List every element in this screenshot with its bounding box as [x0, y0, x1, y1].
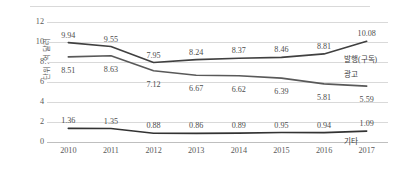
data-point-label: 9.94: [53, 31, 83, 40]
data-point-label: 0.88: [139, 121, 169, 130]
x-tick-label: 2015: [261, 145, 301, 157]
series-label-1: 광고: [344, 70, 358, 79]
series-label-0: 발행(구독): [344, 55, 377, 64]
data-point-label: 6.62: [224, 85, 254, 94]
line-chart-figure: 단위 : 억 달러 024681012 9.949.557.958.248.37…: [0, 0, 403, 180]
x-tick-label: 2013: [176, 145, 216, 157]
data-point-label: 8.37: [224, 46, 254, 55]
gridline-0: [47, 142, 388, 143]
data-point-label: 5.59: [352, 95, 382, 104]
y-tick-label: 10: [28, 37, 44, 46]
data-point-label: 0.86: [181, 121, 211, 130]
data-point-label: 8.51: [53, 66, 83, 75]
data-point-label: 7.12: [139, 80, 169, 89]
x-tick-label: 2010: [48, 145, 88, 157]
y-tick-label: 0: [28, 137, 44, 146]
y-tick-label: 2: [28, 117, 44, 126]
data-point-label: 0.89: [224, 121, 254, 130]
data-point-label: 0.94: [309, 121, 339, 130]
y-tick-label: 12: [28, 17, 44, 26]
x-tick-label: 2014: [219, 145, 259, 157]
data-point-label: 1.36: [53, 116, 83, 125]
data-point-label: 0.95: [266, 121, 296, 130]
data-point-label: 5.81: [309, 93, 339, 102]
x-tick-label: 2016: [304, 145, 344, 157]
data-point-label: 8.81: [309, 42, 339, 51]
x-axis-tick-labels: 20102011201220132014201520162017: [47, 145, 388, 159]
data-point-label: 1.09: [352, 119, 382, 128]
y-tick-label: 4: [28, 97, 44, 106]
x-tick-label: 2011: [91, 145, 131, 157]
data-point-label: 6.39: [266, 87, 296, 96]
x-tick-label: 2017: [347, 145, 387, 157]
data-point-label: 6.67: [181, 84, 211, 93]
y-tick-label: 8: [28, 57, 44, 66]
y-axis-tick-labels: 024681012: [26, 22, 44, 142]
top-divider: [30, 6, 370, 7]
data-point-label: 7.95: [139, 51, 169, 60]
x-tick-label: 2012: [134, 145, 174, 157]
data-point-label: 1.35: [96, 117, 126, 126]
data-point-label: 9.55: [96, 35, 126, 44]
data-point-label: 8.46: [266, 45, 296, 54]
plot-area: 9.949.557.958.248.378.468.8110.088.518.6…: [47, 22, 388, 142]
y-tick-label: 6: [28, 77, 44, 86]
data-point-label: 10.08: [352, 29, 382, 38]
data-point-label: 8.24: [181, 48, 211, 57]
data-point-label: 8.63: [96, 65, 126, 74]
